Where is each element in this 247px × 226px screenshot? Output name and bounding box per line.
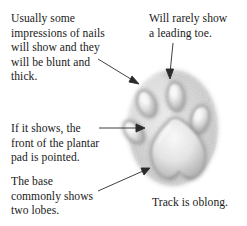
track-identification-figure: Usually some impressions of nails will s… [0,0,247,226]
annotation-base-lobes: The base commonly shows two lobes. [11,175,111,219]
annotation-nails: Usually some impressions of nails will s… [11,12,115,85]
annotation-plantar-pad: If it shows, the front of the plantar pa… [11,122,115,166]
annotation-leading-toe: Will rarely show a leading toe. [149,12,245,41]
annotation-track-oblong: Track is oblong. [152,196,247,211]
